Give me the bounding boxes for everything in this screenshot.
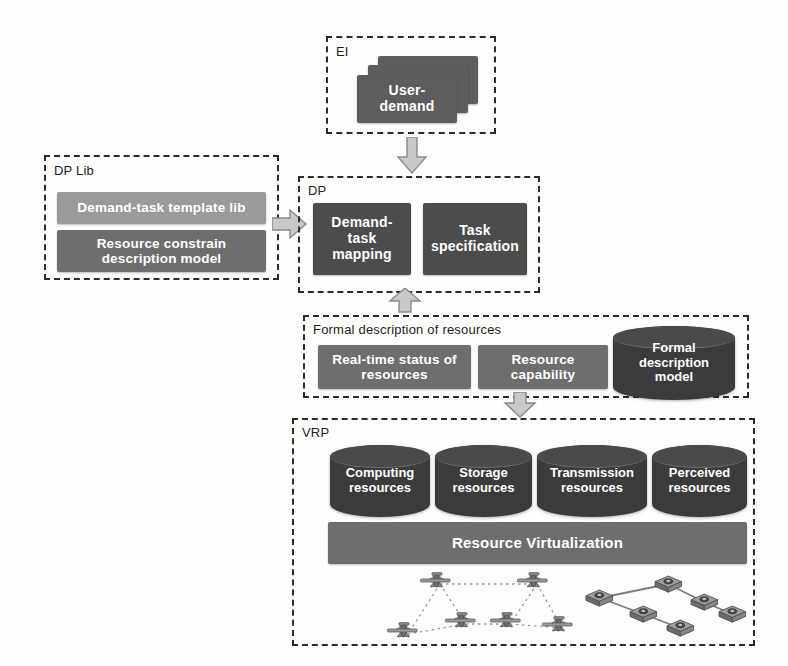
user-demand-line1: User- xyxy=(389,83,426,99)
formal-model-line2: description xyxy=(639,355,709,370)
computing-resources-line2: resources xyxy=(349,480,411,495)
transmission-resources-line2: resources xyxy=(561,480,623,495)
resource-constrain-description-model-box[interactable]: Resource constrain description model xyxy=(57,230,266,272)
group-ei-label: EI xyxy=(333,44,352,59)
aircraft-link-group xyxy=(408,584,562,634)
transmission-resources-cylinder[interactable]: Transmission resources xyxy=(537,445,647,517)
demand-task-mapping-box[interactable]: Demand- task mapping xyxy=(313,203,411,275)
group-dp-label: DP xyxy=(305,183,329,198)
formal-model-line1: Formal xyxy=(652,340,695,355)
resource-capability-line2: capability xyxy=(511,367,575,382)
group-vrp-label: VRP xyxy=(299,425,332,440)
storage-resources-line2: resources xyxy=(452,480,514,495)
aircraft-icon-3 xyxy=(387,623,417,637)
group-dp-lib-label: DP Lib xyxy=(51,163,97,178)
demand-task-template-lib-box[interactable]: Demand-task template lib xyxy=(57,192,266,224)
demand-task-mapping-line2: task xyxy=(348,231,377,247)
aircraft-icon-4 xyxy=(445,613,475,627)
computing-resources-line1: Computing xyxy=(346,465,415,480)
perceived-resources-line1: Perceived xyxy=(669,465,730,480)
real-time-status-line1: Real-time status of xyxy=(332,352,457,367)
task-specification-line2: specification xyxy=(431,239,519,255)
perceived-resources-line2: resources xyxy=(668,480,730,495)
computing-resources-cylinder[interactable]: Computing resources xyxy=(330,445,430,517)
arrow-formal-to-dp-icon xyxy=(388,288,422,314)
resource-virtualization-bar[interactable]: Resource Virtualization xyxy=(328,522,747,564)
demand-task-template-lib-label: Demand-task template lib xyxy=(77,200,245,215)
user-demand-line2: demand xyxy=(380,99,435,115)
user-demand-card-front[interactable]: User- demand xyxy=(357,75,457,123)
server-node-icon-6 xyxy=(719,606,746,622)
aircraft-icon-2 xyxy=(517,573,547,587)
group-formal-description-label: Formal description of resources xyxy=(310,322,504,337)
demand-task-mapping-line3: mapping xyxy=(332,247,392,263)
resource-capability-line1: Resource xyxy=(511,352,574,367)
server-node-icon-2 xyxy=(630,606,657,622)
task-specification-box[interactable]: Task specification xyxy=(423,203,527,275)
server-node-icon-4 xyxy=(667,620,694,636)
network-scene xyxy=(300,566,750,644)
real-time-status-box[interactable]: Real-time status of resources xyxy=(318,345,471,389)
arrow-ei-to-dp-icon xyxy=(396,137,428,175)
resource-constrain-line1: Resource constrain xyxy=(97,236,227,251)
transmission-resources-line1: Transmission xyxy=(550,465,634,480)
formal-description-model-label: Formal description model xyxy=(637,341,711,385)
server-node-icon-5 xyxy=(691,594,718,610)
diagram-canvas: EI User- demand DP Lib Demand-task templ… xyxy=(0,0,788,666)
demand-task-mapping-line1: Demand- xyxy=(331,215,392,231)
server-node-icon-1 xyxy=(586,590,613,606)
resource-capability-box[interactable]: Resource capability xyxy=(478,345,608,389)
aircraft-icon-6 xyxy=(542,617,572,631)
resource-virtualization-label: Resource Virtualization xyxy=(452,534,623,551)
aircraft-icon-1 xyxy=(420,573,450,587)
formal-description-model-cylinder[interactable]: Formal description model xyxy=(613,326,735,400)
storage-resources-cylinder[interactable]: Storage resources xyxy=(435,445,532,517)
task-specification-line1: Task xyxy=(459,223,491,239)
storage-resources-line1: Storage xyxy=(459,465,507,480)
resource-constrain-line2: description model xyxy=(102,251,222,266)
perceived-resources-cylinder[interactable]: Perceived resources xyxy=(652,445,747,517)
arrow-formal-to-vrp-icon xyxy=(503,392,537,418)
formal-model-line3: model xyxy=(655,369,693,384)
real-time-status-line2: resources xyxy=(361,367,427,382)
